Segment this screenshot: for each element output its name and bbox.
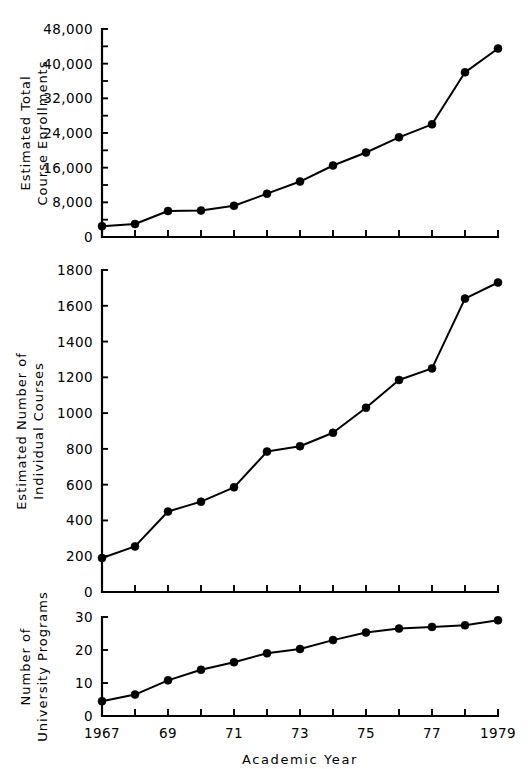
data-point-top-1974: [329, 162, 337, 170]
data-point-top-1972: [263, 190, 271, 198]
ytick-label-bottom-1: 10: [75, 675, 93, 691]
xtick-label-10: 77: [423, 725, 441, 741]
data-point-bottom-1970: [197, 666, 205, 674]
axis-spine-bottom: [102, 617, 498, 716]
ytick-label-top-6: 48,000: [43, 21, 93, 37]
panel-top: 08,00016,00024,00032,00040,00048,000Esti…: [18, 21, 502, 245]
series-line-middle: [102, 283, 498, 558]
data-point-middle-1979: [494, 279, 502, 287]
ytick-label-middle-0: 0: [84, 584, 93, 600]
panel-bottom: 0102030196769717375771979Academic YearNu…: [18, 591, 516, 767]
data-point-top-1979: [494, 45, 502, 53]
xtick-label-6: 73: [291, 725, 309, 741]
ytick-label-top-4: 32,000: [43, 90, 93, 106]
ytick-label-middle-9: 1800: [57, 262, 93, 278]
data-point-middle-1975: [362, 404, 370, 412]
axis-spine-middle: [102, 270, 498, 592]
xtick-label-0: 1967: [84, 725, 120, 741]
data-point-middle-1978: [461, 295, 469, 303]
data-point-bottom-1976: [395, 625, 403, 633]
data-point-top-1978: [461, 68, 469, 76]
data-point-top-1973: [296, 178, 304, 186]
data-point-middle-1967: [98, 554, 106, 562]
data-point-bottom-1968: [131, 691, 139, 699]
data-point-middle-1971: [230, 483, 238, 491]
data-point-top-1975: [362, 149, 370, 157]
xtick-label-2: 69: [159, 725, 177, 741]
data-point-top-1969: [164, 207, 172, 215]
ytick-label-bottom-0: 0: [84, 708, 93, 724]
data-point-bottom-1971: [230, 658, 238, 666]
data-point-bottom-1967: [98, 697, 106, 705]
data-point-bottom-1975: [362, 629, 370, 637]
ytick-label-top-5: 40,000: [43, 56, 93, 72]
x-axis-label: Academic Year: [242, 752, 358, 767]
data-point-middle-1969: [164, 508, 172, 516]
data-point-top-1977: [428, 120, 436, 128]
y-axis-label-middle-line1: Individual Courses: [31, 362, 46, 500]
data-point-bottom-1978: [461, 621, 469, 629]
figure-container: 08,00016,00024,00032,00040,00048,000Esti…: [0, 0, 528, 769]
data-point-top-1968: [131, 220, 139, 228]
data-point-bottom-1977: [428, 623, 436, 631]
ytick-label-bottom-2: 20: [75, 642, 93, 658]
y-axis-label-top-line1: Course Enrollments: [35, 61, 50, 206]
ytick-label-middle-1: 200: [66, 548, 93, 564]
ytick-label-middle-3: 600: [66, 477, 93, 493]
axis-spine-top: [102, 29, 498, 237]
ytick-label-middle-2: 400: [66, 512, 93, 528]
y-axis-label-top-line0: Estimated Total: [18, 75, 33, 190]
xtick-label-12: 1979: [480, 725, 516, 741]
xtick-label-8: 75: [357, 725, 375, 741]
xtick-label-4: 71: [225, 725, 243, 741]
data-point-bottom-1974: [329, 636, 337, 644]
data-point-top-1971: [230, 202, 238, 210]
data-point-bottom-1973: [296, 645, 304, 653]
data-point-middle-1970: [197, 498, 205, 506]
ytick-label-top-3: 24,000: [43, 125, 93, 141]
ytick-label-middle-5: 1000: [57, 405, 93, 421]
data-point-top-1970: [197, 207, 205, 215]
y-axis-label-bottom-line1: University Programs: [35, 591, 50, 741]
y-axis-label-middle-line0: Estimated Number of: [14, 352, 29, 510]
data-point-middle-1972: [263, 448, 271, 456]
multi-panel-line-chart: 08,00016,00024,00032,00040,00048,000Esti…: [0, 0, 528, 769]
ytick-label-top-0: 0: [84, 229, 93, 245]
data-point-top-1976: [395, 133, 403, 141]
data-point-middle-1977: [428, 364, 436, 372]
data-point-bottom-1972: [263, 649, 271, 657]
data-point-top-1967: [98, 222, 106, 230]
ytick-label-middle-8: 1600: [57, 298, 93, 314]
data-point-bottom-1979: [494, 616, 502, 624]
data-point-middle-1973: [296, 442, 304, 450]
ytick-label-top-1: 8,000: [52, 194, 93, 210]
ytick-label-middle-4: 800: [66, 441, 93, 457]
ytick-label-bottom-3: 30: [75, 609, 93, 625]
data-point-middle-1976: [395, 376, 403, 384]
series-line-top: [102, 49, 498, 227]
data-point-bottom-1969: [164, 676, 172, 684]
y-axis-label-bottom-line0: Number of: [18, 628, 33, 706]
series-line-bottom: [102, 620, 498, 701]
ytick-label-middle-6: 1200: [57, 369, 93, 385]
ytick-label-middle-7: 1400: [57, 334, 93, 350]
data-point-middle-1974: [329, 429, 337, 437]
panel-middle: 020040060080010001200140016001800Estimat…: [14, 262, 502, 600]
ytick-label-top-2: 16,000: [43, 160, 93, 176]
data-point-middle-1968: [131, 542, 139, 550]
